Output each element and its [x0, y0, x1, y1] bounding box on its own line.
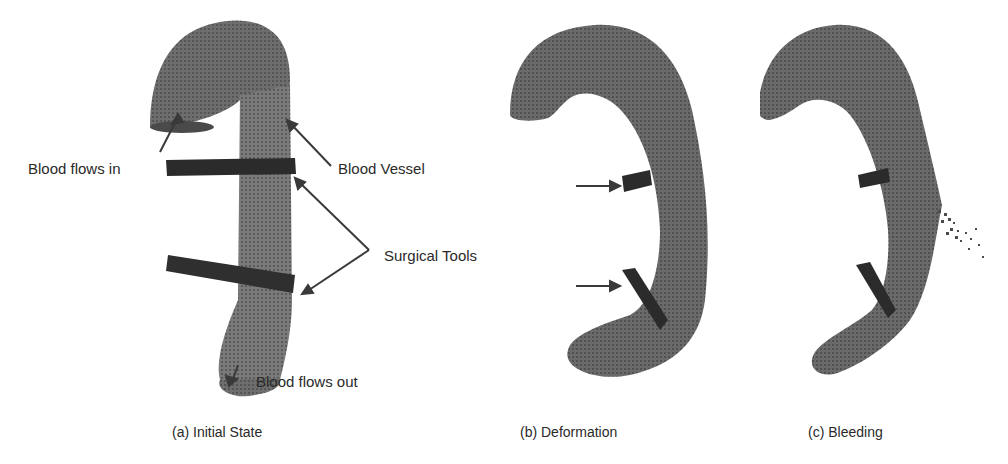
panel-bleeding: (c) Bleeding [760, 0, 1008, 420]
subcaption-c: (c) Bleeding [808, 424, 883, 440]
panel-initial-state: Blood flows in Blood Vessel Surgical Too… [0, 0, 500, 420]
blood-particles [938, 210, 984, 258]
label-surgical-tools: Surgical Tools [384, 247, 477, 264]
figure-caption-clipped [24, 456, 1004, 464]
vessel-bleeding-illustration [760, 0, 1008, 420]
label-blood-flows-out: Blood flows out [256, 373, 358, 390]
label-blood-vessel: Blood Vessel [338, 160, 425, 177]
label-blood-flows-in: Blood flows in [28, 160, 121, 177]
subcaption-a: (a) Initial State [172, 424, 262, 440]
panel-deformation: (b) Deformation [500, 0, 760, 420]
vessel-deformation-illustration [500, 0, 760, 420]
vessel-initial-illustration [0, 0, 500, 420]
subcaption-b: (b) Deformation [520, 424, 617, 440]
